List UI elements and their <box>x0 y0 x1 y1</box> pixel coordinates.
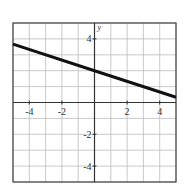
y-tick-label: -4 <box>83 161 91 172</box>
y-tick-label: 4 <box>87 33 92 44</box>
x-tick-label: -4 <box>25 106 33 117</box>
y-axis-label: y <box>97 23 102 32</box>
y-tick-label: -2 <box>83 129 91 140</box>
x-tick-label: 2 <box>125 106 130 117</box>
line-chart: -4-2244-2-4y <box>0 0 186 194</box>
x-tick-label: -2 <box>58 106 66 117</box>
x-tick-label: 4 <box>157 106 162 117</box>
